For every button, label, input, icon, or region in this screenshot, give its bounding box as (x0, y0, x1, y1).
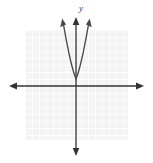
y-axis-top-arrow-icon (73, 17, 80, 25)
x-axis-right-arrow-icon (136, 83, 144, 90)
parabola-graph-figure: y (0, 0, 153, 163)
y-axis-bottom-arrow-icon (73, 148, 80, 156)
coordinate-plane-svg: y (0, 0, 153, 163)
y-axis-label: y (78, 3, 83, 13)
x-axis-left-arrow-icon (9, 83, 17, 90)
